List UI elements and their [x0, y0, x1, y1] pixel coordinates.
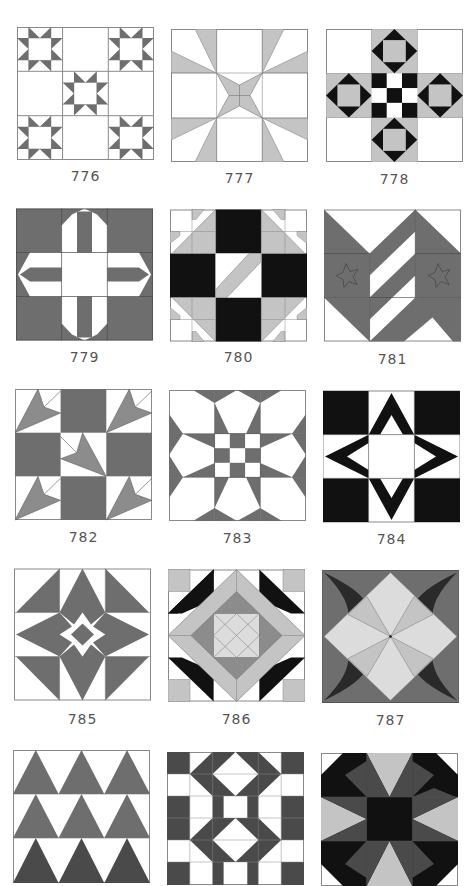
- block-number-777: 777: [171, 170, 308, 186]
- block-number-779: 779: [16, 349, 153, 365]
- block-786-graphic: [168, 569, 305, 702]
- block-783-graphic: [169, 389, 306, 522]
- quilt-block-784: [323, 390, 460, 523]
- quilt-block-789: [167, 752, 304, 885]
- block-number-778: 778: [326, 171, 463, 187]
- block-788-graphic: [13, 750, 150, 883]
- block-number-785: 785: [14, 711, 151, 727]
- quilt-block-782: [15, 388, 152, 521]
- quilt-block-786: [168, 569, 305, 702]
- block-number-783: 783: [169, 530, 306, 546]
- block-781-graphic: [324, 209, 461, 342]
- block-784-graphic: [323, 390, 460, 523]
- block-777-graphic: [171, 29, 308, 162]
- quilt-block-780: [170, 209, 307, 342]
- block-number-786: 786: [168, 711, 305, 727]
- quilt-block-788: [13, 750, 150, 883]
- block-790-graphic: [321, 753, 458, 886]
- quilt-block-781: [324, 209, 461, 342]
- quilt-block-777: [171, 29, 308, 162]
- quilt-block-783: [169, 389, 306, 522]
- block-787-graphic: [322, 570, 459, 703]
- block-number-780: 780: [170, 349, 307, 365]
- block-778-graphic: [326, 29, 463, 162]
- block-number-776: 776: [17, 168, 154, 184]
- block-number-787: 787: [322, 712, 459, 728]
- quilt-block-787: [322, 570, 459, 703]
- block-782-graphic: [15, 388, 152, 521]
- block-number-784: 784: [323, 531, 460, 547]
- quilt-block-778: [326, 29, 463, 162]
- block-number-781: 781: [324, 351, 461, 367]
- block-789-graphic: [167, 752, 304, 885]
- block-number-782: 782: [15, 529, 152, 545]
- quilt-block-785: [14, 568, 151, 701]
- quilt-block-776: [17, 27, 154, 160]
- block-780-graphic: [170, 209, 307, 342]
- quilt-block-779: [16, 208, 153, 341]
- block-779-graphic: [16, 208, 153, 341]
- block-776-graphic: [17, 27, 154, 160]
- block-785-graphic: [14, 568, 151, 701]
- quilt-block-790: [321, 753, 458, 886]
